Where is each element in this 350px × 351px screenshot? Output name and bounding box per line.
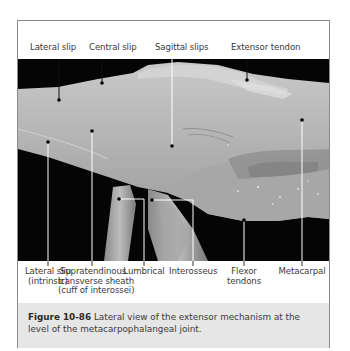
marker-sagittal-slips <box>170 144 174 148</box>
marker-lateral-slip-intrinsic <box>46 140 50 144</box>
dissection-image <box>18 59 329 261</box>
marker-metacarpal <box>300 118 304 122</box>
marker-interosseus <box>150 198 154 202</box>
marker-central-slip <box>100 81 104 85</box>
label-interosseus: Interosseus <box>169 267 217 277</box>
dissection-photo <box>18 59 329 261</box>
label-metacarpal: Metacarpal <box>276 267 328 277</box>
label-lumbrical: Lumbrical <box>122 267 166 277</box>
figure-number: Figure 10-86 <box>28 312 91 322</box>
marker-flexor-tendons <box>242 218 246 222</box>
marker-lumbrical <box>117 197 121 201</box>
figure-caption: Figure 10-86 Lateral view of the extenso… <box>18 303 329 348</box>
label-lateral-slip: Lateral slip <box>30 43 76 53</box>
label-supratendinous-sheath: Supratendinous transverse sheath (cuff o… <box>58 267 128 296</box>
label-extensor-tendon: Extensor tendon <box>231 43 300 53</box>
label-sagittal-slips: Sagittal slips <box>155 43 208 53</box>
marker-supratendinous <box>90 129 94 133</box>
marker-lateral-slip <box>57 98 61 102</box>
label-flexor-tendons: Flexor tendons <box>224 267 264 286</box>
label-central-slip: Central slip <box>89 43 137 53</box>
figure-frame: Lateral slip Central slip Sagittal slips… <box>17 20 330 348</box>
marker-extensor-tendon <box>245 78 249 82</box>
